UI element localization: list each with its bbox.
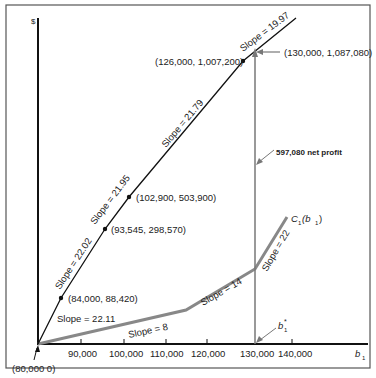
slope-label-22-02: Slope = 22.02 [52,236,93,291]
slope-label-21-79: Slope = 21.79 [159,97,205,149]
point-label-84000: (84,000, 88,420) [68,293,138,304]
bstar-arrow-head [256,336,263,343]
svg-text:90,000: 90,000 [68,348,97,359]
point-label-102900: (102,900, 503,900) [136,192,216,203]
x-tick-labels: 90,000 100,000 110,000 120,000 130,000 1… [68,348,312,359]
svg-text:130,000: 130,000 [240,348,274,359]
svg-text:140,000: 140,000 [278,348,312,359]
x-axis-label: b 1 [355,348,366,361]
revenue-points [59,59,245,300]
point-label-130000: (130,000, 1,087,080) [284,47,372,58]
net-profit-label: 597,080 net profit [276,148,342,157]
optimum-label: b * 1 [278,318,288,333]
bstar-arrow [260,328,276,340]
revenue-cost-chart: $ b 1 90,000 100,000 110,000 120,000 130… [0,0,376,378]
svg-text:C: C [291,213,298,224]
svg-text:b: b [355,348,360,359]
slope-label-8: Slope = 8 [127,321,169,340]
svg-text:110,000: 110,000 [150,348,184,359]
svg-text:1: 1 [284,327,288,333]
cost-curve-label: C 1 (b 1 ) [291,213,322,226]
profit-label-arrow [259,150,274,162]
svg-text:100,000: 100,000 [109,348,143,359]
point-label-126000: (126,000, 1,007,200) [155,56,243,67]
svg-text:1: 1 [362,355,366,361]
y-axis-label: $ [31,17,36,26]
svg-text:*: * [284,318,287,325]
point-label-93545: (93,545, 298,570) [111,224,186,235]
svg-text:(b: (b [302,213,310,224]
origin-arrow-head [35,345,40,352]
slope-label-21-95: Slope = 21.95 [88,173,132,227]
svg-text:b: b [278,320,283,331]
slope-label-14: Slope = 14 [199,275,244,307]
slope-label-22-11: Slope = 22.11 [57,313,115,324]
svg-text:): ) [319,213,322,224]
svg-text:120,000: 120,000 [191,348,225,359]
origin-label: (80,000 0) [12,363,55,374]
